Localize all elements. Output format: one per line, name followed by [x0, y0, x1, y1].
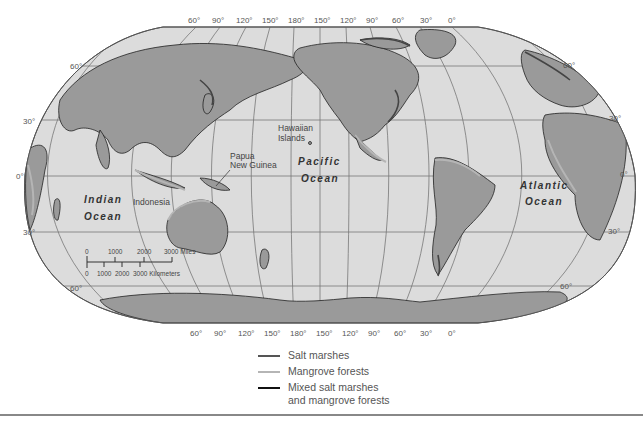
mixed-swatch	[258, 387, 280, 389]
svg-text:1000: 1000	[97, 270, 112, 277]
pacific-ocean-label-1: Pacific	[298, 156, 341, 167]
svg-text:30°: 30°	[609, 114, 621, 123]
svg-text:150°: 150°	[262, 16, 279, 25]
svg-text:60°: 60°	[560, 282, 572, 291]
bottom-longitude-ticks: 60° 90° 120° 150° 180° 150° 120° 90° 60°…	[190, 329, 456, 338]
svg-text:90°: 90°	[366, 16, 378, 25]
svg-text:0°: 0°	[16, 172, 24, 181]
salt-marsh-swatch	[258, 355, 280, 357]
legend-label: Mixed salt marshes and mangrove forests	[288, 381, 390, 407]
hawaii-label-1: Hawaiian	[278, 123, 313, 133]
svg-text:0°: 0°	[448, 16, 456, 25]
svg-text:1000: 1000	[108, 248, 123, 255]
svg-text:0°: 0°	[448, 329, 456, 338]
madagascar	[54, 199, 61, 221]
svg-text:2000: 2000	[115, 270, 130, 277]
svg-text:0: 0	[85, 248, 89, 255]
svg-text:3000 Miles: 3000 Miles	[164, 248, 196, 255]
svg-text:60°: 60°	[70, 284, 82, 293]
legend-item-salt-marshes: Salt marshes	[258, 349, 390, 365]
svg-text:180°: 180°	[290, 329, 307, 338]
atlantic-ocean-label-2: Ocean	[525, 196, 563, 207]
svg-text:0: 0	[85, 270, 89, 277]
legend-label-line1: Mixed salt marshes	[288, 381, 378, 393]
svg-text:180°: 180°	[288, 16, 305, 25]
svg-text:60°: 60°	[394, 329, 406, 338]
indonesia-label: Indonesia	[133, 197, 170, 207]
indian-ocean-label-1: Indian	[84, 194, 122, 205]
svg-text:60°: 60°	[190, 329, 202, 338]
mangrove-swatch	[258, 371, 280, 373]
legend-label-line2: and mangrove forests	[288, 394, 390, 406]
svg-text:90°: 90°	[212, 16, 224, 25]
svg-text:60°: 60°	[188, 16, 200, 25]
legend-label: Mangrove forests	[288, 365, 369, 378]
svg-text:90°: 90°	[214, 329, 226, 338]
svg-text:30°: 30°	[608, 227, 620, 236]
svg-text:0°: 0°	[620, 170, 628, 179]
svg-text:90°: 90°	[368, 329, 380, 338]
png-label-2: New Guinea	[230, 160, 277, 170]
svg-text:30°: 30°	[420, 329, 432, 338]
svg-text:120°: 120°	[342, 329, 359, 338]
svg-text:120°: 120°	[238, 329, 255, 338]
indian-ocean-label-2: Ocean	[84, 211, 122, 222]
svg-text:120°: 120°	[340, 16, 357, 25]
pacific-ocean-label-2: Ocean	[301, 173, 339, 184]
atlantic-ocean-label-1: Atlantic	[519, 180, 569, 191]
svg-text:30°: 30°	[23, 117, 35, 126]
svg-text:120°: 120°	[236, 16, 253, 25]
legend: Salt marshes Mangrove forests Mixed salt…	[258, 349, 390, 409]
svg-text:150°: 150°	[264, 329, 281, 338]
svg-text:60°: 60°	[563, 61, 575, 70]
svg-text:150°: 150°	[314, 16, 331, 25]
svg-text:60°: 60°	[70, 62, 82, 71]
svg-text:2000: 2000	[137, 248, 152, 255]
svg-text:30°: 30°	[420, 16, 432, 25]
divider	[0, 414, 643, 416]
hawaii-label-2: Islands	[278, 133, 305, 143]
svg-text:30°: 30°	[23, 228, 35, 237]
svg-text:3000 Kilometers: 3000 Kilometers	[133, 270, 181, 277]
top-longitude-ticks: 60° 90° 120° 150° 180° 150° 120° 90° 60°…	[188, 16, 456, 25]
svg-text:60°: 60°	[392, 16, 404, 25]
legend-label: Salt marshes	[288, 349, 349, 362]
legend-item-mixed: Mixed salt marshes and mangrove forests	[258, 381, 390, 409]
svg-text:150°: 150°	[316, 329, 333, 338]
legend-item-mangrove: Mangrove forests	[258, 365, 390, 381]
